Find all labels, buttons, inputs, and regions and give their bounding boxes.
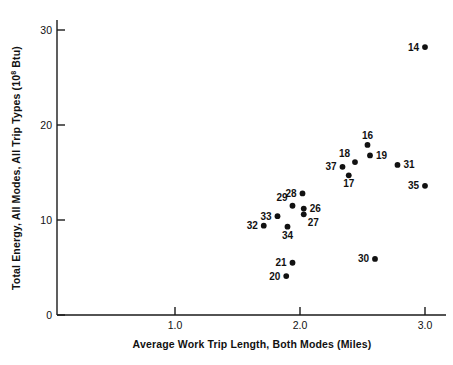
data-point-label: 34 [282,230,294,241]
data-point-label: 17 [343,178,355,189]
data-point-marker [340,164,346,170]
x-tick-label: 3.0 [418,319,433,331]
data-point-marker [275,213,281,219]
data-point-marker [290,203,296,209]
data-point-marker [422,183,428,189]
data-point-label: 18 [339,148,351,159]
x-tick-label: 2.0 [293,319,308,331]
data-point-marker [422,44,428,50]
data-point-label: 35 [408,180,420,191]
data-point-label: 33 [260,211,272,222]
data-point-marker [301,211,307,217]
data-point-marker [283,273,289,279]
data-point-label: 31 [404,159,416,170]
data-point-label: 16 [362,130,374,141]
y-axis-ticks: 0102030 [40,24,65,321]
data-points-layer: 141619183731173528262927333234302120 [247,42,428,282]
x-axis-ticks: 1.02.03.0 [168,307,433,331]
scatter-plot-figure: 0102030 1.02.03.0 1416191837311735282629… [0,0,453,365]
data-point-label: 29 [276,192,288,203]
axes-group [57,20,446,315]
plot-canvas: 0102030 1.02.03.0 1416191837311735282629… [0,0,453,365]
data-point-label: 21 [275,257,287,268]
data-point-label: 19 [376,150,388,161]
data-point-marker [367,153,373,159]
data-point-label: 30 [358,253,370,264]
y-tick-label: 0 [46,309,52,321]
data-point-label: 14 [408,42,420,53]
y-axis-title: Total Energy, All Modes, All Trip Types … [10,46,22,290]
data-point-label: 26 [310,203,322,214]
data-point-label: 32 [247,220,259,231]
data-point-marker [290,260,296,266]
y-tick-label: 10 [40,214,52,226]
data-point-label: 27 [308,217,320,228]
data-point-marker [261,223,267,229]
data-point-marker [352,159,358,165]
y-tick-label: 30 [40,24,52,36]
data-point-label: 37 [325,161,337,172]
y-tick-label: 20 [40,119,52,131]
data-point-marker [301,206,307,212]
data-point-label: 20 [269,271,281,282]
data-point-marker [395,162,401,168]
data-point-marker [300,191,306,197]
x-axis-title: Average Work Trip Length, Both Modes (Mi… [133,338,372,350]
data-point-marker [372,256,378,262]
x-tick-label: 1.0 [168,319,183,331]
data-point-marker [365,142,371,148]
